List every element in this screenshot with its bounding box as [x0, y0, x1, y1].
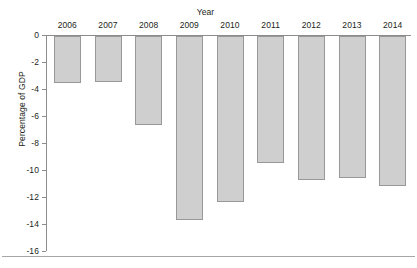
x-tick-label-2011: 2011	[251, 20, 291, 30]
bar-2011	[257, 36, 284, 163]
y-tick-mark-2	[42, 89, 46, 90]
bar-2009	[176, 36, 203, 220]
y-tick-label-minus10: -10	[0, 165, 39, 175]
plot-area	[47, 36, 413, 256]
x-tick-label-2012: 2012	[291, 20, 331, 30]
y-tick-label-minus2: -2	[0, 57, 39, 67]
bar-2007	[95, 36, 122, 82]
y-tick-mark-3	[42, 116, 46, 117]
bottom-divider	[2, 256, 415, 257]
y-tick-label-0: 0	[0, 30, 39, 40]
x-axis-tick-labels: 2006 2007 2008 2009 2010 2011 2012 2013 …	[47, 20, 413, 33]
y-tick-mark-1	[42, 62, 46, 63]
y-tick-label-minus8: -8	[0, 138, 39, 148]
x-tick-label-2014: 2014	[373, 20, 413, 30]
y-tick-label-minus12: -12	[0, 192, 39, 202]
bar-2012	[298, 36, 325, 180]
y-tick-mark-5	[42, 170, 46, 171]
bar-2013	[339, 36, 366, 178]
bar-2008	[135, 36, 162, 125]
y-tick-label-minus14: -14	[0, 219, 39, 229]
x-axis-title: Year	[0, 7, 417, 17]
bar-chart-figure: Year 2006 2007 2008 2009 2010 2011 2012 …	[0, 0, 417, 268]
y-tick-label-minus4: -4	[0, 84, 39, 94]
bar-2010	[217, 36, 244, 202]
bar-2006	[54, 36, 81, 83]
y-tick-mark-8	[42, 251, 46, 252]
x-tick-label-2006: 2006	[47, 20, 87, 30]
y-tick-label-minus6: -6	[0, 111, 39, 121]
y-tick-mark-4	[42, 143, 46, 144]
y-tick-label-minus16: -16	[0, 246, 39, 256]
x-axis-title-label: Year	[197, 7, 215, 17]
x-tick-label-2009: 2009	[169, 20, 209, 30]
y-tick-mark-6	[42, 197, 46, 198]
x-tick-label-2010: 2010	[210, 20, 250, 30]
y-tick-mark-7	[42, 224, 46, 225]
x-tick-label-2013: 2013	[332, 20, 372, 30]
bar-2014	[379, 36, 406, 186]
x-tick-label-2007: 2007	[88, 20, 128, 30]
y-axis-title: Percentage of GDP	[17, 49, 27, 169]
x-tick-label-2008: 2008	[129, 20, 169, 30]
